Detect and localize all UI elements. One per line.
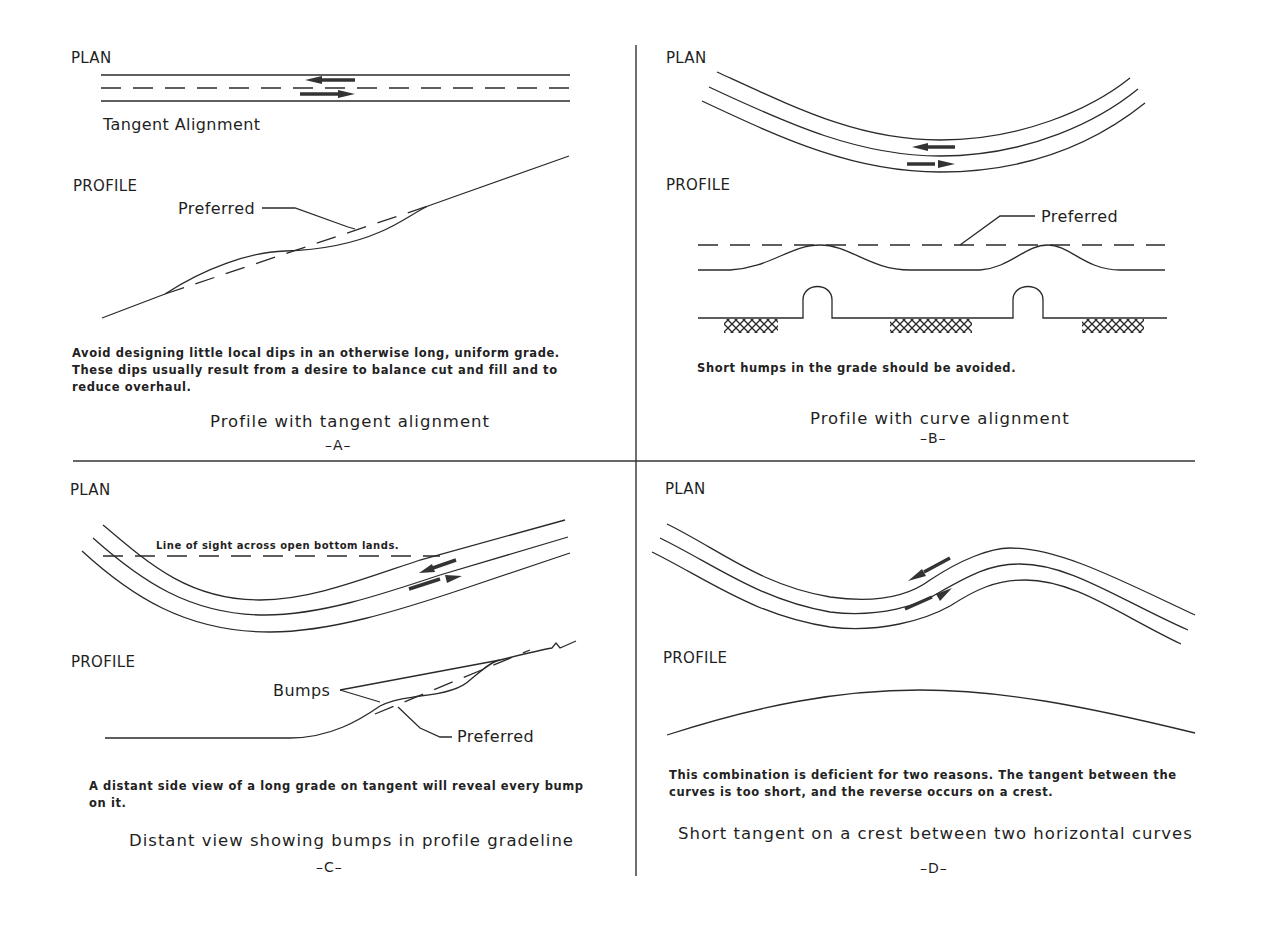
- panel-b-plan-label: PLAN: [666, 49, 706, 67]
- earth-hatch-pattern-icon: [890, 319, 972, 333]
- panel-d-profile-drawing: [667, 690, 1195, 735]
- panel-b-letter: –B–: [920, 430, 947, 446]
- figure-canvas: PLAN Tangent Alignment PROFILE Preferred…: [0, 0, 1265, 929]
- panel-c-title: Distant view showing bumps in profile gr…: [129, 831, 574, 850]
- panel-c-letter: –C–: [316, 859, 343, 875]
- panel-b-plan-drawing: [702, 72, 1145, 172]
- panel-d-profile-label: PROFILE: [663, 649, 727, 667]
- panel-a-preferred-callout: Preferred: [178, 199, 255, 218]
- earth-hatch-pattern-icon: [724, 319, 778, 333]
- panel-a-letter: –A–: [325, 437, 352, 453]
- panel-b-note: Short humps in the grade should be avoid…: [697, 360, 1137, 377]
- panel-a-title: Profile with tangent alignment: [210, 412, 490, 431]
- traffic-direction-arrows-icon: [905, 558, 952, 609]
- panel-c-preferred-callout: Preferred: [457, 727, 534, 746]
- panel-c-note: A distant side view of a long grade on t…: [89, 778, 589, 812]
- panel-a-profile-drawing: [102, 156, 569, 318]
- panel-c-profile-label: PROFILE: [71, 653, 135, 671]
- panel-c-plan-label: PLAN: [70, 481, 110, 499]
- panel-a-note: Avoid designing little local dips in an …: [72, 345, 582, 396]
- traffic-direction-arrows-icon: [409, 560, 462, 589]
- panel-b-preferred-callout: Preferred: [1041, 207, 1118, 226]
- panel-d-plan-label: PLAN: [665, 480, 705, 498]
- panel-d-letter: –D–: [920, 860, 948, 876]
- panel-a-plan-label: PLAN: [71, 49, 111, 67]
- panel-a-plan-drawing: [101, 75, 570, 101]
- panel-d-title: Short tangent on a crest between two hor…: [678, 824, 1193, 843]
- panel-c-profile-drawing: [105, 641, 576, 738]
- panel-c-line-of-sight-annotation: Line of sight across open bottom lands.: [156, 540, 399, 551]
- panel-b-title: Profile with curve alignment: [810, 409, 1070, 428]
- panel-b-profile-drawing: [698, 216, 1167, 333]
- panel-d-note: This combination is deficient for two re…: [669, 767, 1194, 801]
- panel-a-profile-label: PROFILE: [73, 177, 137, 195]
- panel-a-plan-caption: Tangent Alignment: [103, 115, 260, 134]
- panel-c-bumps-callout: Bumps: [273, 681, 330, 700]
- panel-d-plan-drawing: [652, 524, 1195, 644]
- traffic-direction-arrows-icon: [300, 76, 355, 98]
- earth-hatch-pattern-icon: [1082, 319, 1144, 333]
- panel-b-profile-label: PROFILE: [666, 176, 730, 194]
- panel-c-plan-drawing: [82, 520, 570, 632]
